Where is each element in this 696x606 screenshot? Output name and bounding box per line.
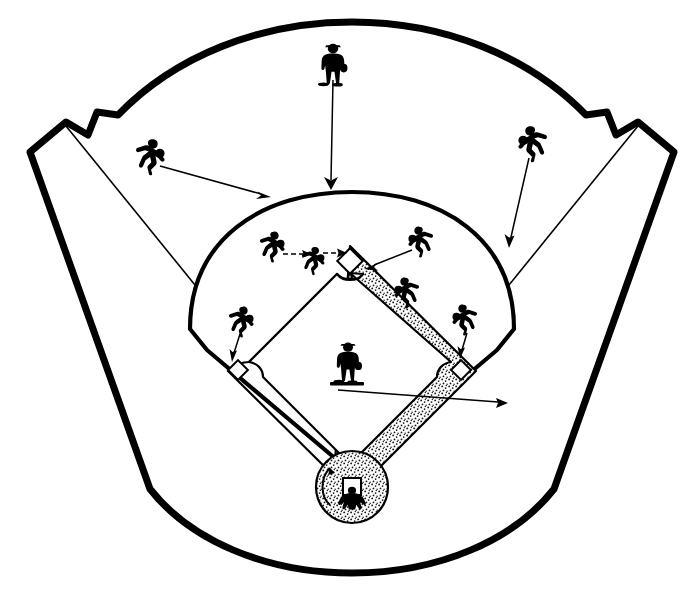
baseball-field-diagram: Baseball Field Defensive Positions Home … (0, 0, 696, 606)
label-pitchers-rubber: Pitchers Rubber (2, 156, 117, 173)
